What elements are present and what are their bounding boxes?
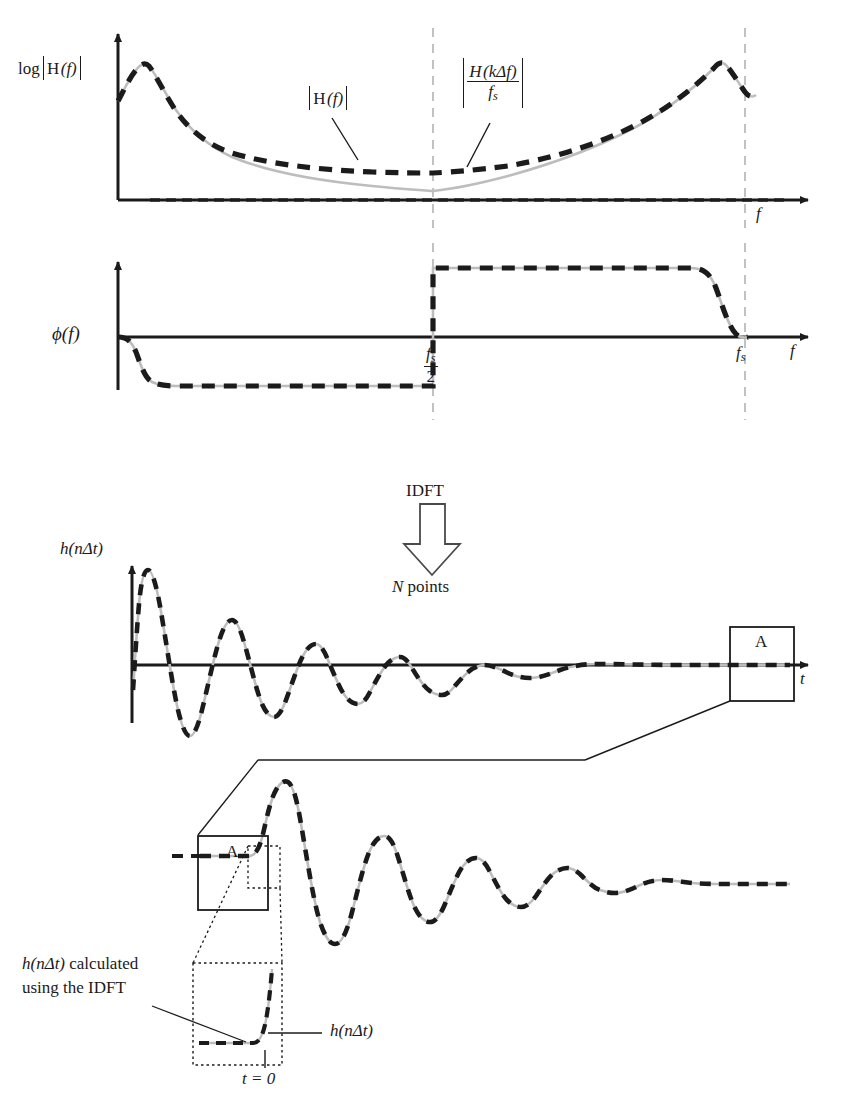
magnified-caption-line2: using the IDFT <box>22 979 138 997</box>
impulse-curve-underlay <box>133 570 790 736</box>
abs-bar-left-icon <box>309 86 310 110</box>
magnified-curve-underlay <box>200 781 790 944</box>
idft-arrow-group <box>404 504 460 575</box>
impulse-curve <box>133 570 790 736</box>
annotation-sampled-arg: (kΔf) <box>483 62 517 81</box>
magnitude-x-axis-label: f <box>756 205 761 223</box>
origin-label-t-zero: t = 0 <box>242 1070 275 1088</box>
curve-label-arg: (nΔt) <box>339 1021 374 1040</box>
annotation-exact-arg: (f) <box>327 89 343 108</box>
magnitude-annotation-exact: H (f) <box>306 86 350 110</box>
magnified-caption-line1: h(nΔt) calculated <box>22 955 138 973</box>
caption-rest: calculated <box>65 954 138 973</box>
figure-root: logH (f) f H (f) H (kΔf) fs ϕ(f) f fs 2 … <box>0 0 841 1109</box>
magnified-caption: h(nΔt) calculated using the IDFT <box>22 955 138 997</box>
abs-bar-left-icon <box>463 58 464 108</box>
phase-y-axis-label: ϕ(f) <box>52 324 80 344</box>
annotation-sampled-fs-sub: s <box>493 90 498 104</box>
magnified-curve-label: h(nΔt) <box>330 1022 373 1040</box>
impulse-y-axis-label: h(nΔt) <box>60 540 103 558</box>
idft-block-arrow <box>404 504 460 575</box>
tick-half-denominator: 2 <box>427 367 436 386</box>
magnitude-annotation-sampled: H (kΔf) fs <box>460 58 526 108</box>
leader-sampled-magnitude <box>467 123 490 167</box>
tick-full-label-sub: s <box>741 350 746 364</box>
magnitude-ylabel-arg: (f) <box>61 59 77 78</box>
magnified-box-label-a: A <box>226 843 238 861</box>
magnitude-sampled-curve <box>118 63 756 173</box>
annotation-sampled-H: H <box>469 62 481 81</box>
zoom-connector-top <box>585 701 730 760</box>
magnified-curve <box>200 781 790 944</box>
caption-h: h <box>22 954 31 973</box>
curve-label-h: h <box>330 1021 339 1040</box>
impulse-box-label-a: A <box>755 633 767 651</box>
impulse-x-axis-label: t <box>800 670 805 688</box>
magnitude-ylabel-log: log <box>18 59 40 78</box>
abs-bar-right-icon <box>346 86 347 110</box>
leader-exact-magnitude <box>332 118 358 160</box>
abs-bar-left-icon <box>43 56 44 80</box>
abs-bar-right-icon <box>80 56 81 80</box>
idft-points-word: points <box>403 577 449 596</box>
tick-half-numerator-sub: s <box>431 351 436 365</box>
idft-label-top: IDFT <box>406 482 444 500</box>
phase-x-axis-label: f <box>790 342 795 360</box>
detail-box-inner <box>248 846 280 888</box>
figure-graphics <box>0 0 841 1109</box>
phase-tick-label-fs: fs <box>736 344 746 364</box>
magnitude-y-axis-label: logH (f) <box>18 56 84 80</box>
phase-tick-label-fs-half: fs 2 <box>424 345 438 385</box>
impulse-ylabel-arg: (nΔt) <box>69 539 104 558</box>
leader-idft-text <box>152 1006 246 1042</box>
magnitude-ylabel-H: H <box>47 59 59 78</box>
phase-plot-group <box>118 243 808 420</box>
caption-arg: (nΔt) <box>31 954 66 973</box>
idft-label-bottom: N points <box>392 578 449 596</box>
impulse-plot-group <box>132 566 808 835</box>
magnified-plot-group <box>152 781 790 1068</box>
idft-n-symbol: N <box>392 577 403 596</box>
zoom-connector-bottom <box>198 760 258 835</box>
abs-bar-right-icon <box>522 58 523 108</box>
detail-connector-left <box>193 846 248 963</box>
detail-connector-right <box>280 888 282 963</box>
annotation-exact-H: H <box>313 89 325 108</box>
impulse-ylabel-h: h <box>60 539 69 558</box>
detail-idft-curve <box>199 969 272 1043</box>
